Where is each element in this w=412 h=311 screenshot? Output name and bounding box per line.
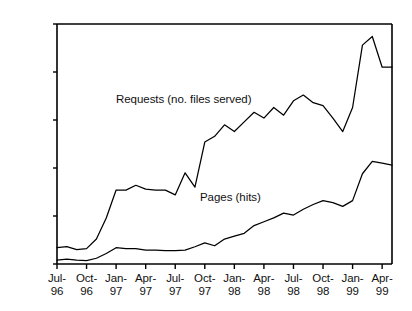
series-label-pages: Pages (hits) <box>200 191 261 204</box>
chart-figure: 250,000200,000150,000100,00050,0000 Jul-… <box>0 0 412 311</box>
x-tick-label-month: Apr- <box>360 272 404 285</box>
x-tick-label: Apr-99 <box>360 272 404 298</box>
series-label-requests: Requests (no. files served) <box>116 93 251 106</box>
x-axis-tick-label-group: Jul-96Oct-96Jan-97Apr-97Jul-97Oct-97Jan-… <box>0 0 412 311</box>
x-tick-label-year: 99 <box>360 285 404 298</box>
